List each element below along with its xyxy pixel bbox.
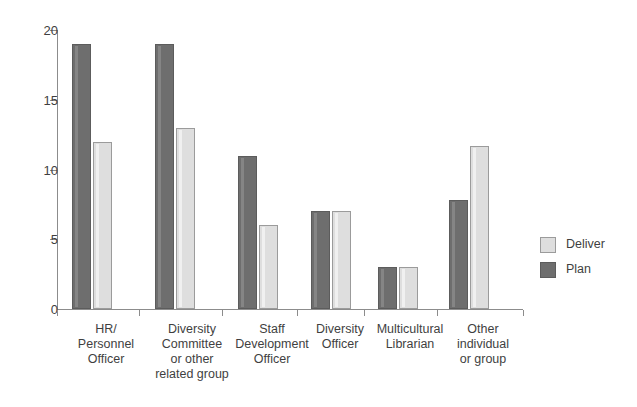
legend-item[interactable]: Plan [540, 257, 632, 282]
x-axis-category-label-line: Other [443, 322, 523, 337]
chart-legend: DeliverPlan [540, 232, 632, 282]
bar-plan [449, 200, 468, 309]
x-axis-tick-mark [139, 310, 140, 316]
bar-group [378, 30, 419, 309]
legend-label: Deliver [566, 238, 605, 251]
bar-deliver [332, 211, 351, 309]
x-axis-category-label-line: HR/ [66, 322, 146, 337]
bar-group [238, 30, 279, 309]
x-axis-tick-mark [57, 310, 58, 316]
bar-plan [72, 44, 91, 309]
bar-plan [378, 267, 397, 309]
x-axis-tick-mark [297, 310, 298, 316]
legend-swatch-plan [540, 262, 556, 278]
x-axis-category-label-line: Officer [66, 352, 146, 367]
bar-group [72, 30, 113, 309]
x-axis-category-label: Otherindividualor group [443, 322, 523, 367]
x-axis-category-label-line: Officer [229, 352, 315, 367]
y-axis-tick-label: 0 [14, 303, 58, 316]
x-axis-line [57, 309, 523, 310]
legend-item[interactable]: Deliver [540, 232, 632, 257]
bar-deliver [176, 128, 195, 309]
bar-plan [238, 156, 257, 309]
bar-group [311, 30, 352, 309]
x-axis-tick-mark [364, 310, 365, 316]
bar-plan [155, 44, 174, 309]
x-axis-category-label-line: Diversity [144, 322, 240, 337]
bar-group [155, 30, 196, 309]
y-axis-tick-label: 10 [14, 164, 58, 177]
x-axis-category-label-line: or group [443, 352, 523, 367]
y-axis-tick-label: 20 [14, 24, 58, 37]
bar-deliver [259, 225, 278, 309]
bar-deliver [470, 146, 489, 309]
x-axis-category-label-line: Personnel [66, 337, 146, 352]
bar-plan [311, 211, 330, 309]
x-axis-tick-mark [523, 310, 524, 316]
bar-group [449, 30, 490, 309]
legend-swatch-deliver [540, 237, 556, 253]
x-axis-category-label-line: related group [144, 367, 240, 382]
x-axis-tick-mark [437, 310, 438, 316]
x-axis-category-label: HR/PersonnelOfficer [66, 322, 146, 367]
plot-area [58, 30, 520, 309]
legend-label: Plan [566, 263, 591, 276]
x-axis-category-label: DiversityCommitteeor otherrelated group [144, 322, 240, 382]
x-axis-category-label-line: Committee [144, 337, 240, 352]
bar-chart: 05101520 HR/PersonnelOfficerDiversityCom… [0, 0, 637, 407]
x-axis-tick-mark [222, 310, 223, 316]
x-axis-category-label-line: individual [443, 337, 523, 352]
bar-deliver [399, 267, 418, 309]
y-axis-tick-label: 15 [14, 94, 58, 107]
x-axis-category-label-line: or other [144, 352, 240, 367]
y-axis-tick-label: 5 [14, 233, 58, 246]
bar-deliver [93, 142, 112, 309]
